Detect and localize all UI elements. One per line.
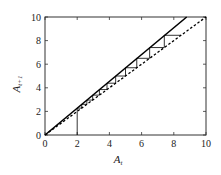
x-tick-label: 2: [75, 138, 80, 149]
y-tick-label: 10: [31, 12, 41, 23]
x-axis-ticks: 0246810: [43, 17, 212, 149]
growth-line-path: [45, 17, 187, 135]
cobweb-chart: 0246810 0246810 At At+1: [0, 0, 221, 175]
y-tick-label: 0: [36, 130, 41, 141]
cobweb-path: [77, 35, 181, 135]
y-tick-label: 8: [36, 35, 41, 46]
y-tick-label: 2: [36, 106, 41, 117]
x-tick-label: 0: [43, 138, 48, 149]
identity-line-path: [45, 17, 206, 135]
x-tick-label: 6: [139, 138, 144, 149]
x-tick-label: 8: [171, 138, 176, 149]
x-tick-label: 4: [107, 138, 112, 149]
x-axis-label: At: [113, 153, 124, 167]
y-tick-label: 6: [36, 59, 41, 70]
x-tick-label: 10: [201, 138, 211, 149]
growth-line: [45, 17, 187, 135]
identity-line: [45, 17, 206, 135]
y-tick-label: 4: [36, 82, 41, 93]
cobweb-staircase: [77, 35, 181, 135]
y-axis-label: At+1: [10, 76, 24, 94]
